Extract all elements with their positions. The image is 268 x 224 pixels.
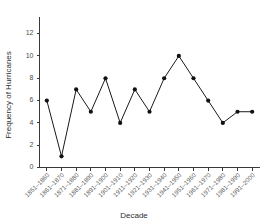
data-point-marker: 1911–1920: 7 xyxy=(133,87,137,91)
data-point-marker: 1921–1930: 5 xyxy=(147,110,151,114)
y-tick-label: 10 xyxy=(26,52,34,59)
hurricane-frequency-chart: 024681012 1851–18601861–18701871–1880188… xyxy=(0,0,268,224)
data-point-marker: 1971–1980: 4 xyxy=(221,121,225,125)
y-tick-label: 2 xyxy=(30,141,34,148)
y-axis-title: Frequency of Hurricanes xyxy=(4,51,13,139)
data-point-marker: 1881–1890: 5 xyxy=(89,110,93,114)
data-point-marker: 1961–1970: 6 xyxy=(206,98,210,102)
y-tick-label: 6 xyxy=(30,96,34,103)
data-point-marker: 1991–2000: 5 xyxy=(250,110,254,114)
chart-canvas: 024681012 1851–18601861–18701871–1880188… xyxy=(0,0,268,224)
y-tick-label: 12 xyxy=(26,29,34,36)
data-point-marker: 1901–1910: 4 xyxy=(118,121,122,125)
y-tick-label: 0 xyxy=(30,163,34,170)
data-point-marker: 1861–1870: 1 xyxy=(59,154,63,158)
data-point-marker: 1941–1950: 10 xyxy=(177,54,181,58)
y-tick-label: 8 xyxy=(30,74,34,81)
data-point-marker: 1891–1900: 8 xyxy=(103,76,107,80)
data-point-marker: 1851–1860: 6 xyxy=(45,98,49,102)
data-point-marker: 1951–1960: 8 xyxy=(191,76,195,80)
y-tick-label: 4 xyxy=(30,119,34,126)
data-point-marker: 1871–1880: 7 xyxy=(74,87,78,91)
x-axis-title: Decade xyxy=(120,211,148,220)
data-point-marker: 1981–1990: 5 xyxy=(235,110,239,114)
data-point-marker: 1931–1940: 8 xyxy=(162,76,166,80)
